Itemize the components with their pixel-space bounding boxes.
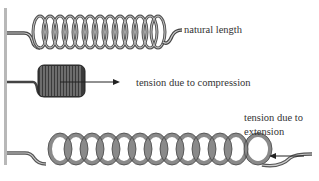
compressed-spring <box>7 65 85 97</box>
natural-length-label: natural length <box>184 24 242 36</box>
spring-diagram <box>0 0 319 181</box>
compression-label: tension due to compression <box>136 77 251 89</box>
extension-label-line2: extension <box>244 126 284 138</box>
natural-length-spring <box>7 16 182 48</box>
extension-label-line1: tension due to <box>244 112 303 124</box>
wall <box>4 8 7 165</box>
